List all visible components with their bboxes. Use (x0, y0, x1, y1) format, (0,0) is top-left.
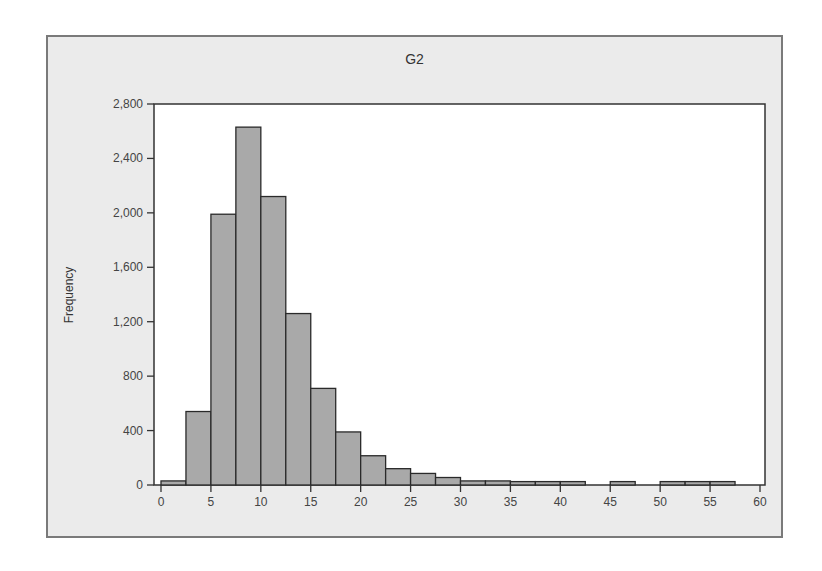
histogram-bar (361, 456, 386, 485)
x-axis: 051015202530354045505560 (158, 485, 767, 509)
y-tick-label: 2,400 (113, 151, 143, 165)
x-tick-label: 40 (554, 495, 568, 509)
x-tick-label: 20 (354, 495, 368, 509)
x-tick-label: 10 (254, 495, 268, 509)
histogram-chart: 04008001,2001,6002,0002,4002,800 0510152… (0, 0, 822, 571)
y-tick-label: 0 (136, 478, 143, 492)
histogram-bar (211, 214, 236, 485)
y-axis-title: Frequency (62, 267, 76, 324)
histogram-bar (286, 314, 311, 485)
histogram-bar (261, 197, 286, 485)
histogram-bar (186, 412, 211, 485)
x-tick-label: 30 (454, 495, 468, 509)
histogram-bar (610, 482, 635, 485)
histogram-bar (161, 481, 186, 485)
histogram-bar (461, 481, 486, 485)
y-axis: 04008001,2001,6002,0002,4002,800 (113, 97, 154, 492)
x-tick-label: 50 (653, 495, 667, 509)
x-tick-label: 55 (703, 495, 717, 509)
histogram-bar (510, 482, 535, 485)
histogram-bar (336, 432, 361, 485)
histogram-bar (411, 473, 436, 485)
histogram-bar (436, 478, 461, 485)
histogram-bar (236, 127, 261, 485)
histogram-bar (660, 482, 685, 485)
y-tick-label: 2,000 (113, 206, 143, 220)
histogram-bar (685, 482, 710, 485)
y-tick-label: 1,200 (113, 315, 143, 329)
x-tick-label: 45 (604, 495, 618, 509)
x-tick-label: 35 (504, 495, 518, 509)
histogram-bar (311, 388, 336, 485)
x-tick-label: 15 (304, 495, 318, 509)
y-tick-label: 400 (123, 424, 143, 438)
histogram-bar (560, 482, 585, 485)
x-tick-label: 0 (158, 495, 165, 509)
y-tick-label: 1,600 (113, 260, 143, 274)
x-tick-label: 60 (753, 495, 767, 509)
y-tick-label: 800 (123, 369, 143, 383)
histogram-bar (386, 469, 411, 485)
y-tick-label: 2,800 (113, 97, 143, 111)
histogram-bar (535, 482, 560, 485)
histogram-bar (485, 481, 510, 485)
x-tick-label: 5 (208, 495, 215, 509)
histogram-bar (710, 482, 735, 485)
x-tick-label: 25 (404, 495, 418, 509)
